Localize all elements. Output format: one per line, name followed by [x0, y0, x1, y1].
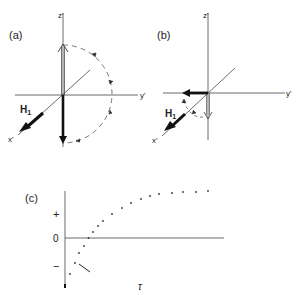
h1-label: H1	[20, 104, 31, 116]
x-axis-label: x'	[152, 136, 158, 145]
rotation-path	[184, 100, 203, 117]
rotation-arrow-icon	[76, 139, 80, 142]
y-tick-minus: −	[53, 260, 59, 272]
rotation-arrow-icon	[192, 110, 196, 114]
panel-b-label: (b)	[157, 29, 170, 41]
x-axis-label: x'	[8, 135, 14, 144]
panel-c: (c) + 0 − τ	[25, 190, 224, 292]
axis-end-mark	[64, 284, 66, 288]
rotation-arrow-icon	[109, 80, 113, 84]
z-axis-label: z'	[58, 11, 64, 20]
h1-label: H1	[165, 108, 176, 120]
annotation-arrow	[79, 264, 90, 272]
data-points	[69, 190, 209, 275]
arrow-head-left-icon	[182, 89, 190, 97]
figure: (a) z' y' x' H1 (b) z' y'	[0, 0, 301, 295]
rotation-path	[63, 45, 112, 143]
panel-a-label: (a)	[9, 29, 22, 41]
panel-c-label: (c)	[25, 192, 38, 204]
z-axis-label: z'	[203, 11, 209, 20]
rotation-arrow-icon	[182, 99, 186, 103]
y-axis-label: y'	[286, 89, 292, 98]
rotation-arrow-icon	[109, 110, 112, 114]
panel-a: (a) z' y' x' H1	[8, 11, 146, 147]
x-axis-label: τ	[138, 281, 143, 292]
y-axis-label: y'	[140, 91, 146, 100]
y-tick-zero: 0	[53, 233, 59, 244]
panel-b: (b) z' y' x' H1	[152, 11, 292, 145]
y-tick-plus: +	[53, 208, 59, 220]
